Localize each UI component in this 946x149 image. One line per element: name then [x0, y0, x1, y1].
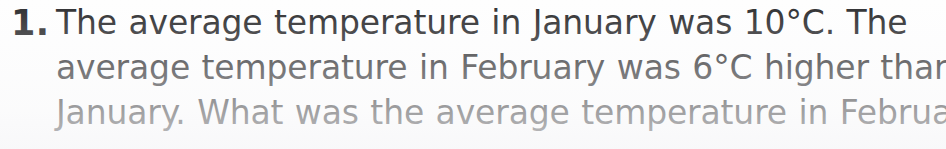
- worksheet-page: 1. The average temperature in January wa…: [0, 0, 946, 149]
- question-text-block: The average temperature in January was 1…: [56, 0, 946, 135]
- question-item-1: 1. The average temperature in January wa…: [0, 0, 946, 149]
- question-text-line-2: average temperature in February was 6°C …: [56, 45, 946, 90]
- question-text-line-1: The average temperature in January was 1…: [56, 0, 946, 45]
- question-number-label: 1.: [11, 1, 55, 46]
- question-text-line-3: January. What was the average temperatur…: [56, 90, 946, 135]
